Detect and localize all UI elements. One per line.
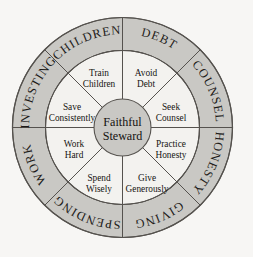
inner-label-line1: Save <box>63 102 81 112</box>
inner-label-line2: Children <box>83 79 116 89</box>
inner-label-line2: Debt <box>137 79 155 89</box>
inner-label-line1: Practice <box>156 139 186 149</box>
inner-sector-work-hard: Work Hard <box>64 139 85 160</box>
center-label-line1: Faithful <box>103 115 142 129</box>
inner-label-line1: Work <box>64 139 85 149</box>
inner-label-line2: Honesty <box>156 150 187 160</box>
inner-label-line2: Generously <box>126 184 169 194</box>
inner-label-line1: Give <box>138 173 156 183</box>
inner-sector-practice-honesty: Practice Honesty <box>156 139 187 160</box>
inner-label-line2: Wisely <box>86 184 112 194</box>
inner-label-line1: Avoid <box>135 68 158 78</box>
inner-label-line1: Spend <box>87 173 111 183</box>
inner-label-line2: Consistently <box>49 113 96 123</box>
center-label-line2: Steward <box>103 129 143 143</box>
center-label: Faithful Steward <box>103 115 143 143</box>
inner-label-line2: Counsel <box>156 113 187 123</box>
inner-label-line2: Hard <box>65 150 84 160</box>
inner-sector-avoid-debt: Avoid Debt <box>135 68 158 89</box>
stewardship-wheel-diagram: CHILDREN DEBT COUNSEL HONESTY GIVING SPE… <box>0 0 253 257</box>
inner-label-line1: Train <box>89 68 109 78</box>
inner-sector-spend-wisely: Spend Wisely <box>86 173 112 194</box>
inner-label-line1: Seek <box>162 102 180 112</box>
